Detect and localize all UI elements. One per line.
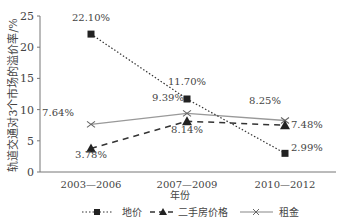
y-tick-label: 20	[20, 41, 34, 54]
data-labels: 22.10%11.70%2.99%3.78%8.14%7.48%7.64%9.3…	[42, 12, 323, 160]
x-tick-label: 2007—2009	[157, 179, 218, 190]
y-axis-title: 轨道交通对3个市场的溢价率/%	[6, 18, 20, 171]
data-label: 11.70%	[168, 76, 206, 87]
data-label: 22.10%	[72, 12, 110, 23]
data-label: 7.48%	[291, 119, 323, 130]
square-marker-icon	[94, 209, 100, 215]
x-tick-label: 2003—2006	[61, 179, 122, 190]
data-label: 3.78%	[75, 149, 107, 160]
legend-label: 二手房价格	[178, 206, 228, 218]
y-tick-label: 10	[20, 104, 34, 117]
data-label: 9.39%	[152, 92, 184, 103]
triangle-marker-icon	[280, 120, 290, 129]
data-label: 2.99%	[291, 142, 323, 153]
x-axis-ticks: 2003—20062007—20092010—2012	[61, 179, 316, 190]
x-tick-label: 2010—2012	[255, 179, 316, 190]
legend-item-resale-price: 二手房价格	[150, 206, 228, 218]
line-chart: 轨道交通对3个市场的溢价率/% 0510152025 2003—20062007…	[0, 0, 343, 220]
legend-item-rent: 租金	[240, 206, 299, 218]
x-axis-title: 年份	[170, 189, 190, 201]
legend-item-land-price: 地价	[82, 206, 142, 218]
y-tick-label: 5	[27, 135, 34, 148]
y-tick-label: 0	[27, 166, 34, 179]
data-label: 8.14%	[171, 124, 203, 135]
square-marker-icon	[282, 150, 289, 157]
legend-label: 租金	[279, 206, 299, 218]
square-marker-icon	[88, 31, 95, 38]
y-axis-ticks: 0510152025	[20, 10, 40, 179]
legend: 地价 二手房价格 租金	[82, 206, 299, 218]
series-land-price	[88, 31, 289, 157]
data-label: 7.64%	[42, 107, 74, 118]
legend-label: 地价	[122, 206, 142, 218]
data-label: 8.25%	[249, 95, 281, 106]
y-tick-label: 25	[20, 10, 34, 23]
y-tick-label: 15	[20, 72, 34, 85]
square-marker-icon	[184, 95, 191, 102]
series-layer	[86, 31, 290, 157]
